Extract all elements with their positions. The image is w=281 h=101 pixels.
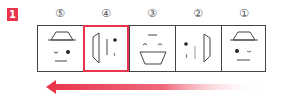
step-badge: 1	[7, 8, 18, 21]
face-right-profile-icon	[176, 26, 222, 71]
panel-order-label: ③	[129, 7, 175, 20]
panel-order-label: ①	[221, 7, 267, 20]
face-left-profile-icon	[85, 27, 129, 70]
face-front-icon	[38, 26, 84, 71]
panel-order-label: ②	[175, 7, 221, 20]
panel-strip	[37, 25, 266, 72]
panel-1	[221, 26, 267, 71]
face-back-icon	[130, 26, 176, 71]
face-front-icon	[222, 26, 268, 71]
panel-3	[129, 26, 175, 71]
panel-5	[38, 26, 84, 71]
panel-order-label: ⑤	[37, 7, 83, 20]
panel-2	[175, 26, 221, 71]
direction-arrow-left-icon	[46, 80, 261, 94]
panel-4-highlighted	[83, 25, 129, 72]
panel-order-label: ④	[83, 7, 129, 20]
